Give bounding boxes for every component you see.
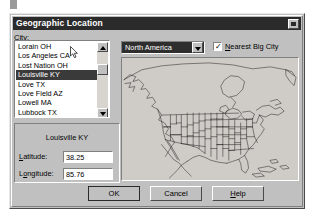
city-list-scrollbar[interactable] [97,42,108,118]
list-item[interactable]: Lost Nation OH [16,61,99,70]
latitude-label: Latitude: [19,152,63,161]
title-bar[interactable]: Geographic Location [13,17,301,30]
screenshot-root: Geographic Location City: Lorain OH Los … [0,0,315,223]
list-item[interactable]: Love Field AZ [16,89,99,98]
latitude-input[interactable]: 38.25 [63,151,113,163]
scrollbar-thumb[interactable] [97,64,108,75]
nearest-big-city-checkbox-wrap[interactable]: ✓ Nearest Big City [213,42,278,51]
coordinates-group: Louisville KY Latitude: 38.25 Longitude:… [14,123,120,183]
close-icon [291,22,296,26]
latitude-row: Latitude: 38.25 [19,150,117,163]
scroll-up-arrow-icon [100,46,106,50]
nearest-big-city-label: Nearest Big City [225,42,278,51]
scroll-down-arrow-icon [100,112,106,116]
city-list-items: Lorain OH Los Angeles CA Lost Nation OH … [16,42,99,118]
scan-artifact [10,0,17,9]
list-item-selected[interactable]: Louisville KY [16,70,101,79]
nearest-big-city-checkbox[interactable]: ✓ [213,42,222,51]
help-button[interactable]: Help [212,186,264,201]
geographic-location-dialog: Geographic Location City: Lorain OH Los … [9,13,305,209]
city-listbox[interactable]: Lorain OH Los Angeles CA Lost Nation OH … [14,40,110,118]
longitude-input[interactable]: 85.76 [63,168,113,180]
scroll-down-button[interactable] [97,108,108,118]
ok-button[interactable]: OK [88,186,140,201]
list-item[interactable]: Los Angeles CA [16,51,99,60]
longitude-row: Longitude: 85.76 [19,167,117,180]
selected-city-name: Louisville KY [15,133,119,142]
dialog-title: Geographic Location [13,17,103,30]
region-dropdown-button[interactable] [192,42,203,53]
list-item[interactable]: Love TX [16,80,99,89]
chevron-down-icon [195,47,201,51]
list-item[interactable]: Lucin UT [16,117,99,118]
cancel-button[interactable]: Cancel [150,186,202,201]
region-selected-value: North America [122,41,192,54]
list-item[interactable]: Lubbock TX [16,108,99,117]
north-america-map[interactable] [121,57,299,181]
map-svg [122,58,298,180]
longitude-label: Longitude: [19,169,63,178]
list-item[interactable]: Lorain OH [16,42,99,51]
close-button[interactable] [288,19,299,29]
scroll-up-button[interactable] [97,42,108,52]
checkmark-icon: ✓ [215,43,222,51]
list-item[interactable]: Lowell MA [16,98,99,107]
region-dropdown[interactable]: North America [121,41,205,54]
